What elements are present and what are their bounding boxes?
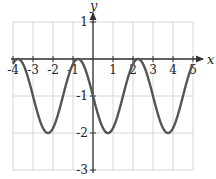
x-tick-label: 1: [109, 63, 117, 77]
y-axis-label: y: [89, 0, 98, 13]
grid: [13, 22, 193, 170]
y-tick-label: -2: [76, 126, 88, 140]
y-tick-label: -1: [76, 89, 88, 103]
x-tick-label: -2: [47, 63, 59, 77]
x-tick-label: 4: [169, 63, 177, 77]
y-tick-label: 1: [80, 15, 88, 29]
x-axis-arrow-icon: [196, 56, 204, 63]
x-tick-label: -4: [7, 63, 19, 77]
chart: -4-3-2-1123451-1-2-3 x y: [0, 0, 216, 179]
y-axis-arrow-icon: [90, 12, 97, 20]
x-tick-label: 3: [149, 63, 157, 77]
x-axis-label: x: [207, 52, 215, 67]
x-tick-label: -3: [27, 63, 39, 77]
axes: [11, 12, 204, 173]
y-tick-label: -3: [76, 163, 88, 177]
